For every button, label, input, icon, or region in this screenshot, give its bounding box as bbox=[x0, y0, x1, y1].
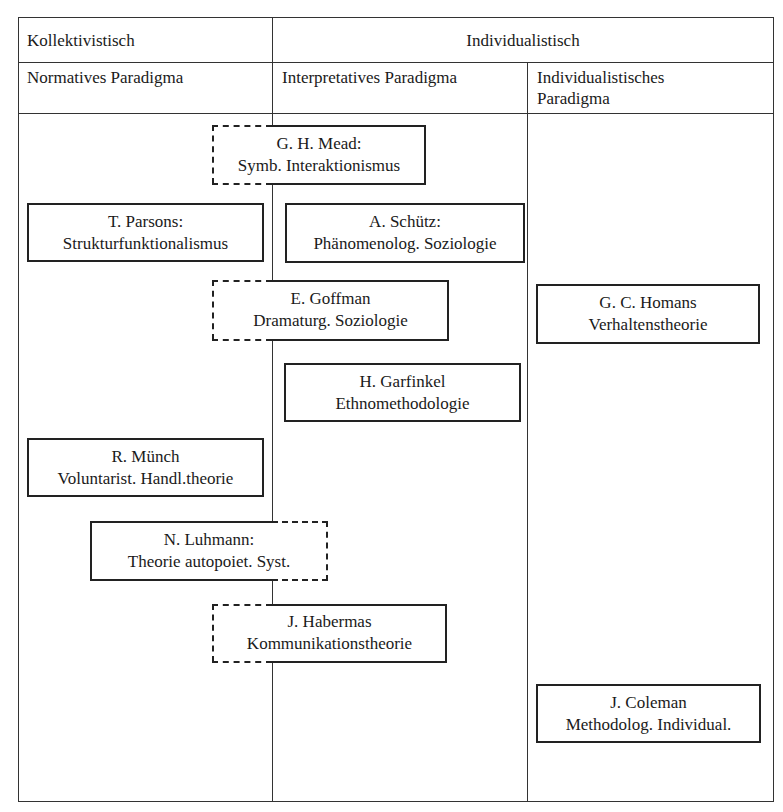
header-collective: Kollektivistisch bbox=[27, 30, 135, 51]
coleman-name: J. Coleman bbox=[610, 692, 687, 714]
garfinkel-name: H. Garfinkel bbox=[360, 371, 446, 393]
header-normative-paradigm: Normatives Paradigma bbox=[27, 67, 183, 88]
goffman-theory: Dramaturg. Soziologie bbox=[253, 310, 408, 332]
header-individual: Individualistisch bbox=[272, 30, 774, 51]
header-bottom-divider bbox=[18, 113, 774, 114]
header-individualistic-line1: Individualistisches bbox=[537, 67, 664, 88]
parsons-box: T. Parsons: Strukturfunktionalismus bbox=[27, 203, 264, 262]
habermas-label: J. Habermas Kommunikationstheorie bbox=[212, 604, 447, 662]
schuetz-box: A. Schütz: Phänomenolog. Soziologie bbox=[285, 203, 525, 263]
garfinkel-theory: Ethnomethodologie bbox=[335, 393, 469, 415]
column-divider-individualistic bbox=[527, 62, 528, 802]
muench-name: R. Münch bbox=[112, 446, 180, 468]
goffman-label: E. Goffman Dramaturg. Soziologie bbox=[212, 280, 449, 340]
habermas-name: J. Habermas bbox=[287, 611, 371, 633]
header-individualistic-paradigm: Individualistisches Paradigma bbox=[537, 67, 664, 109]
muench-box: R. Münch Voluntarist. Handl.theorie bbox=[27, 438, 264, 497]
coleman-theory: Methodolog. Individual. bbox=[566, 714, 732, 736]
parsons-theory: Strukturfunktionalismus bbox=[63, 233, 228, 255]
garfinkel-box: H. Garfinkel Ethnomethodologie bbox=[284, 363, 521, 422]
luhmann-theory: Theorie autopoiet. Syst. bbox=[128, 551, 290, 573]
muench-theory: Voluntarist. Handl.theorie bbox=[58, 468, 234, 490]
homans-box: G. C. Homans Verhaltenstheorie bbox=[536, 284, 760, 344]
homans-theory: Verhaltenstheorie bbox=[589, 314, 708, 336]
schuetz-theory: Phänomenolog. Soziologie bbox=[313, 233, 496, 255]
parsons-name: T. Parsons: bbox=[108, 211, 183, 233]
mead-theory: Symb. Interaktionismus bbox=[238, 155, 400, 177]
luhmann-label: N. Luhmann: Theorie autopoiet. Syst. bbox=[90, 521, 328, 580]
luhmann-name: N. Luhmann: bbox=[164, 529, 255, 551]
mead-name: G. H. Mead: bbox=[277, 133, 362, 155]
habermas-theory: Kommunikationstheorie bbox=[247, 633, 412, 655]
header-individualistic-line2: Paradigma bbox=[537, 88, 664, 109]
mead-label: G. H. Mead: Symb. Interaktionismus bbox=[212, 125, 426, 184]
homans-name: G. C. Homans bbox=[599, 292, 696, 314]
header-row-divider bbox=[18, 62, 774, 63]
goffman-name: E. Goffman bbox=[291, 288, 371, 310]
coleman-box: J. Coleman Methodolog. Individual. bbox=[536, 684, 761, 743]
schuetz-name: A. Schütz: bbox=[369, 211, 441, 233]
header-interpretative-paradigm: Interpretatives Paradigma bbox=[282, 67, 457, 88]
